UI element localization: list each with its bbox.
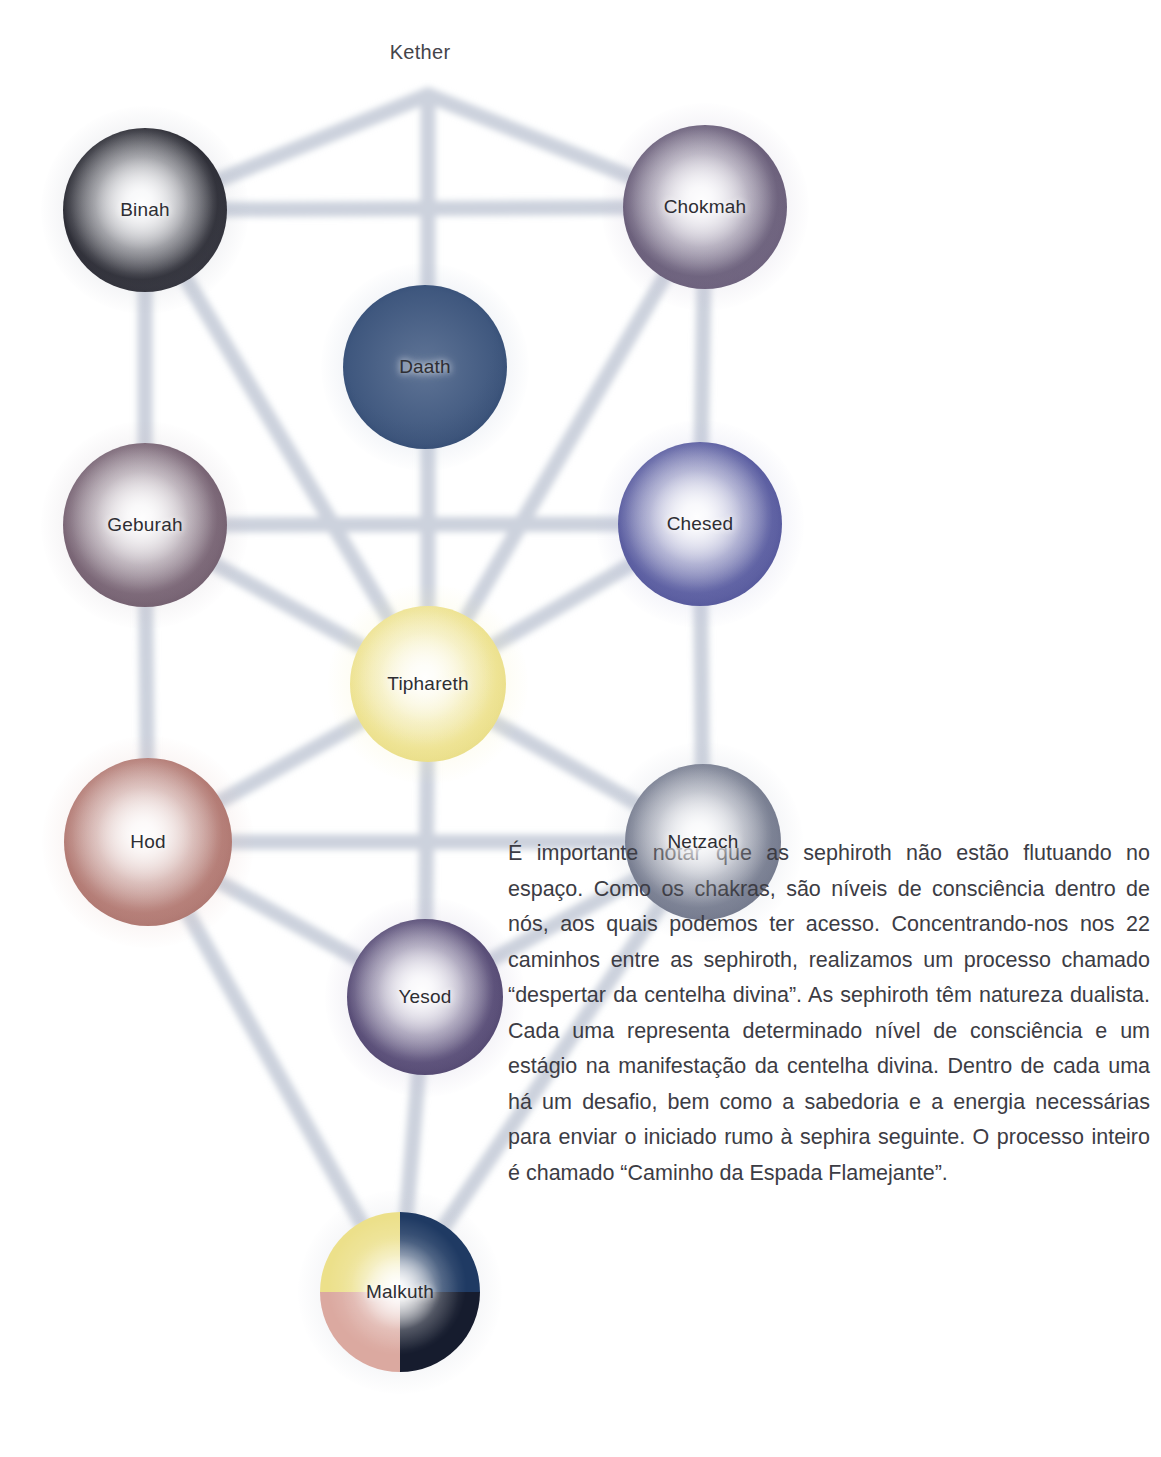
- sephirah-label-hod: Hod: [130, 831, 165, 853]
- sephirah-label-geburah: Geburah: [107, 514, 182, 536]
- sephirah-tiphareth[interactable]: Tiphareth: [350, 606, 506, 762]
- tree-of-life-page: Kether BinahChokmahDaathGeburahChesedTip…: [0, 0, 1161, 1457]
- sephirah-chesed[interactable]: Chesed: [618, 442, 782, 606]
- sephirah-label-binah: Binah: [120, 199, 170, 221]
- tree-of-life-diagram: Kether BinahChokmahDaathGeburahChesedTip…: [0, 0, 840, 1457]
- sephirah-label-chokmah: Chokmah: [664, 196, 747, 218]
- sephirah-label-tiphareth: Tiphareth: [387, 673, 468, 695]
- sephirah-chokmah[interactable]: Chokmah: [623, 125, 787, 289]
- sephirah-geburah[interactable]: Geburah: [63, 443, 227, 607]
- sephirah-label-yesod: Yesod: [398, 986, 451, 1008]
- sephirah-label-netzach: Netzach: [667, 831, 738, 853]
- sephirah-binah[interactable]: Binah: [63, 128, 227, 292]
- sephirah-malkuth[interactable]: Malkuth: [320, 1212, 480, 1372]
- body-paragraph: É importante notar que as sephiroth não …: [508, 836, 1150, 1191]
- sephirah-hod[interactable]: Hod: [64, 758, 232, 926]
- kether-label: Kether: [0, 41, 840, 64]
- sephirah-yesod[interactable]: Yesod: [347, 919, 503, 1075]
- sephirah-daath[interactable]: Daath: [343, 285, 507, 449]
- body-copy: É importante notar que as sephiroth não …: [508, 836, 1150, 1191]
- sephirah-label-malkuth: Malkuth: [366, 1281, 434, 1303]
- sephirah-label-chesed: Chesed: [667, 513, 734, 535]
- sephirah-label-daath: Daath: [399, 356, 451, 378]
